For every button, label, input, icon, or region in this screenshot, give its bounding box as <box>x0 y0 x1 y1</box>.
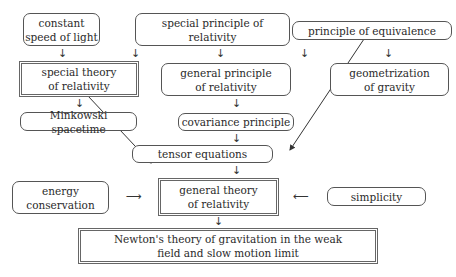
arrow-down: ↓ <box>232 165 241 176</box>
node-label: special principle of relativity <box>156 16 269 44</box>
arrow-down: ↓ <box>300 48 309 59</box>
arrow-down: ↓ <box>232 133 241 144</box>
node-label: tensor equations <box>158 147 247 161</box>
node-label: general theory of relativity <box>179 183 258 211</box>
arrow-left: ⟵ <box>293 191 309 202</box>
node-general-theory-of-relativity: general theory of relativity <box>158 178 279 216</box>
node-label: Newton's theory of gravitation in the we… <box>109 232 347 260</box>
node-label: principle of equivalence <box>308 24 436 38</box>
arrow-down: ↓ <box>384 48 393 59</box>
arrow-right: ⟶ <box>126 191 142 202</box>
node-label: general principle of relativity <box>174 66 278 94</box>
node-constant-speed-of-light: constant speed of light <box>23 13 100 46</box>
node-label: covariance principle <box>182 115 291 129</box>
node-principle-of-equivalence: principle of equivalence <box>292 21 452 40</box>
node-covariance-principle: covariance principle <box>178 113 294 131</box>
node-label: Minkowski spacetime <box>21 108 136 136</box>
arrow-down: ↓ <box>232 98 241 109</box>
node-geometrization-of-gravity: geometrization of gravity <box>330 63 449 96</box>
arrow-down: ↓ <box>216 48 225 59</box>
node-label: special theory of relativity <box>40 65 118 93</box>
arrow-down: ↓ <box>131 48 140 59</box>
node-label: geometrization of gravity <box>349 66 429 94</box>
node-tensor-equations: tensor equations <box>132 145 273 163</box>
node-minkowski-spacetime: Minkowski spacetime <box>20 112 137 131</box>
node-label: energy conservation <box>13 184 108 212</box>
arrow-down: ↓ <box>214 216 223 227</box>
node-general-principle-of-relativity: general principle of relativity <box>161 63 291 96</box>
node-newtons-theory-of-gravitation: Newton's theory of gravitation in the we… <box>78 228 378 264</box>
node-energy-conservation: energy conservation <box>12 181 109 214</box>
node-special-theory-of-relativity: special theory of relativity <box>19 61 139 97</box>
arrow-down: ↓ <box>58 48 67 59</box>
node-label: constant speed of light <box>24 16 99 44</box>
node-special-principle-of-relativity: special principle of relativity <box>135 13 290 46</box>
node-simplicity: simplicity <box>327 187 426 206</box>
node-label: simplicity <box>351 190 403 204</box>
